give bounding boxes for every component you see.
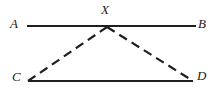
segment-xd-dashed-line <box>107 27 193 81</box>
geometry-figure: A X B C D <box>0 0 220 95</box>
vertex-label-c: C <box>12 70 21 83</box>
vertex-label-b: B <box>198 17 206 30</box>
vertex-label-a: A <box>10 17 18 30</box>
vertex-label-x: X <box>101 3 109 16</box>
diagram-canvas <box>0 0 220 95</box>
vertex-label-d: D <box>197 69 206 82</box>
segment-cx-dashed-line <box>28 27 107 81</box>
